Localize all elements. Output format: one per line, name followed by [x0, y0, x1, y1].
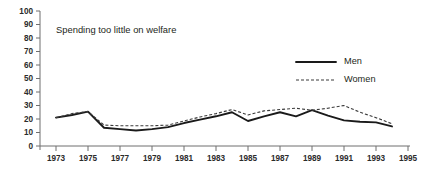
x-axis: 1973197519771979198119831985198719891991…: [40, 146, 418, 163]
y-tick-label: 30: [24, 101, 34, 110]
y-tick-label: 0: [28, 142, 33, 151]
x-tick-label: 1993: [367, 154, 386, 163]
x-tick-label: 1985: [239, 154, 258, 163]
y-tick-label: 20: [24, 115, 34, 124]
chart-title: Spending too little on welfare: [56, 24, 176, 35]
chart-container: 1009080706050403020100 19731975197719791…: [0, 0, 424, 173]
plot-area: [56, 106, 392, 131]
x-tick-label: 1991: [335, 154, 354, 163]
x-tick-label: 1989: [303, 154, 322, 163]
y-tick-label: 10: [24, 128, 34, 137]
x-tick-label: 1977: [111, 154, 130, 163]
x-tick-label: 1981: [175, 154, 194, 163]
y-tick-label: 90: [24, 20, 34, 29]
x-tick-label: 1987: [271, 154, 290, 163]
y-tick-label: 80: [24, 34, 34, 43]
line-chart: 1009080706050403020100 19731975197719791…: [0, 0, 424, 173]
series-line-women: [56, 106, 392, 126]
y-axis: 1009080706050403020100: [19, 7, 40, 151]
chart-legend: MenWomen: [296, 56, 376, 84]
y-tick-label: 50: [24, 74, 34, 83]
x-tick-label: 1975: [79, 154, 98, 163]
series-line-men: [56, 110, 392, 130]
x-tick-label: 1973: [47, 154, 66, 163]
x-tick-label: 1995: [399, 154, 418, 163]
legend-label-men: Men: [344, 56, 362, 66]
y-tick-label: 70: [24, 47, 34, 56]
y-tick-label: 60: [24, 61, 34, 70]
y-tick-label: 40: [24, 88, 34, 97]
x-tick-label: 1979: [143, 154, 162, 163]
x-tick-label: 1983: [207, 154, 226, 163]
legend-label-women: Women: [344, 74, 376, 84]
y-tick-label: 100: [19, 7, 33, 16]
